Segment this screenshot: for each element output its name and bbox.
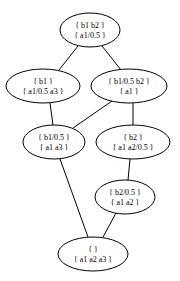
node-label-objects: { b2/0.5 } [109, 188, 141, 197]
edge-n1-n3 [50, 103, 53, 125]
node-label-attributes: { a1 a2/0.5 } [112, 143, 153, 152]
node-label-attributes: { a1/0.5 a3 } [22, 87, 63, 96]
edge-n4-n5 [128, 159, 130, 180]
node-n6: { } { a1 a2 a3 } [58, 237, 128, 271]
node-label-objects: { b1 } [33, 77, 53, 86]
node-label-attributes: { a1/0.5 } [74, 31, 106, 40]
node-label-attributes: { a1 a2 a3 } [74, 255, 112, 264]
edge-n0-n1 [59, 46, 78, 70]
node-label-attributes: { a1 a3 } [40, 143, 69, 152]
lattice-diagram: { b1 b2 } { a1/0.5 } { b1 } { a1/0.5 a3 … [0, 0, 180, 281]
node-n5: { b2/0.5 } { a1 a2 } [95, 180, 155, 214]
edge-n5-n6 [103, 213, 116, 237]
node-label-objects: { b1 b2 } [75, 21, 105, 30]
node-label-attributes: { a1 a2 } [111, 198, 140, 207]
node-n1: { b1 } { a1/0.5 a3 } [6, 69, 80, 103]
edge-n2-n3 [73, 101, 112, 128]
edge-n0-n2 [102, 46, 121, 70]
node-label-objects: { b1/0.5 b2 } [108, 77, 150, 86]
node-label-objects: { } [88, 245, 98, 254]
node-n0: { b1 b2 } { a1/0.5 } [60, 13, 120, 47]
node-n2: { b1/0.5 b2 } { a1 } [91, 69, 167, 103]
edge-n3-n6 [60, 159, 88, 237]
node-label-attributes: { a1 } [119, 87, 138, 96]
node-n4: { b2 } { a1 a2/0.5 } [96, 125, 170, 159]
node-label-objects: { b2 } [123, 133, 143, 142]
node-n3: { b1/0.5 } { a1 a3 } [23, 125, 85, 159]
node-label-objects: { b1/0.5 } [38, 133, 70, 142]
